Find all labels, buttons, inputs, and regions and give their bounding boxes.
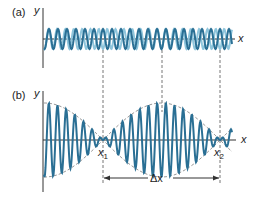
arrowhead-left — [104, 176, 110, 181]
node2-label: x2 — [213, 146, 225, 161]
node1-label: x1 — [97, 146, 109, 161]
panel-b-x-label: x — [240, 133, 247, 145]
panel-a-x-label: x — [237, 32, 244, 44]
panel-b-label: (b) — [12, 89, 25, 101]
panel-b: (b) y x x1 x2 Δx — [12, 87, 247, 192]
beats-diagram: (a) y x (b) y x x1 x2 Δx — [0, 0, 260, 199]
dashed-guides — [103, 50, 220, 185]
panel-a: (a) y x — [12, 4, 244, 68]
delta-x-label: Δx — [150, 172, 163, 184]
arrowhead-right — [213, 176, 219, 181]
panel-a-label-text: (a) — [12, 6, 25, 18]
panel-a-y-label: y — [33, 4, 41, 16]
panel-b-y-label: y — [33, 87, 41, 99]
